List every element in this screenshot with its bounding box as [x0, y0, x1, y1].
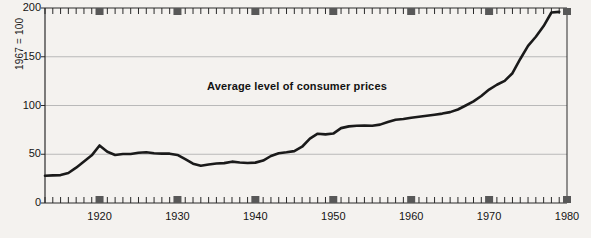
decade-marker-top [173, 8, 181, 15]
decade-marker-bottom [485, 196, 493, 203]
decade-marker-bottom [407, 196, 415, 203]
decade-marker-top [251, 8, 259, 15]
plot-area [0, 0, 591, 238]
decade-marker-bottom [173, 196, 181, 203]
decade-marker-bottom [96, 196, 104, 203]
decade-marker-top [96, 8, 104, 15]
decade-marker-bottom [251, 196, 259, 203]
decade-marker-top [563, 8, 571, 15]
decade-marker-top [485, 8, 493, 15]
plot-annotation-title: Average level of consumer prices [207, 80, 387, 92]
decade-marker-top [329, 8, 337, 15]
data-series-line [45, 12, 559, 176]
decade-marker-bottom [563, 196, 571, 203]
chart-container: 1967 = 100 050100150200 1920193019401950… [0, 0, 591, 238]
decade-marker-bottom [329, 196, 337, 203]
decade-marker-top [407, 8, 415, 15]
